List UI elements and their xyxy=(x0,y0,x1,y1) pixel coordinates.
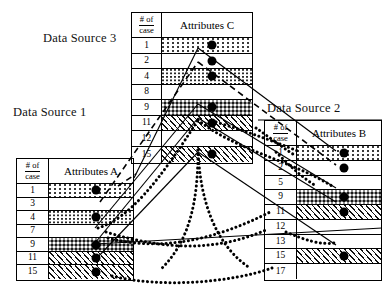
cell-case-number: 11 xyxy=(132,116,162,131)
table-row: 5 xyxy=(265,176,381,191)
table-row: 15 xyxy=(17,265,133,279)
table-row: 4 xyxy=(17,211,133,225)
record-marker-dot xyxy=(340,163,349,172)
table-row: 11 xyxy=(17,252,133,266)
table-row: 1 xyxy=(132,38,252,54)
cell-attributes-hatch xyxy=(49,252,133,265)
cell-case-number: 4 xyxy=(17,211,49,224)
table-row: 17 xyxy=(265,264,381,279)
cell-attributes-none xyxy=(297,176,381,190)
record-marker-dot xyxy=(92,186,101,195)
table-row: 3 xyxy=(17,198,133,212)
cell-attributes-dots-fine xyxy=(49,184,133,197)
record-marker-dot xyxy=(340,207,349,216)
table-row: 15 xyxy=(132,147,252,163)
table-row: 4 xyxy=(132,69,252,85)
case-header-line1: # of xyxy=(140,15,153,25)
cell-case-number: 1 xyxy=(132,38,162,53)
record-marker-dot xyxy=(208,118,217,127)
table-header-row: # ofcaseAttributes A xyxy=(17,159,133,184)
cell-case-number: 12 xyxy=(132,131,162,146)
record-marker-dot xyxy=(340,193,349,202)
record-marker-dot xyxy=(92,268,101,277)
column-header-attributes: Attributes A xyxy=(49,159,133,183)
cell-attributes-dots-med xyxy=(162,69,252,84)
cell-attributes-none xyxy=(49,225,133,238)
cell-attributes-none xyxy=(162,85,252,100)
table-row: 7 xyxy=(17,225,133,239)
cell-attributes-dots-dark xyxy=(162,100,252,115)
cell-attributes-none xyxy=(49,198,133,211)
cell-case-number: 2 xyxy=(265,161,297,175)
table-row: 15 xyxy=(265,249,381,264)
case-header-line2: case xyxy=(273,133,288,144)
record-marker-dot xyxy=(208,103,217,112)
table-data-source-2: # ofcaseAttributes B12591112131517 xyxy=(264,120,382,281)
record-marker-dot xyxy=(208,41,217,50)
label-data-source-2: Data Source 2 xyxy=(267,101,340,116)
cell-attributes-hatch xyxy=(49,265,133,279)
record-marker-dot xyxy=(92,240,101,249)
cell-case-number: 8 xyxy=(132,85,162,100)
cell-attributes-none xyxy=(297,235,381,249)
cell-case-number: 1 xyxy=(265,146,297,160)
record-marker-dot xyxy=(340,252,349,261)
cell-attributes-dots-fine xyxy=(162,38,252,53)
table-row: 1 xyxy=(17,184,133,198)
cell-case-number: 11 xyxy=(265,205,297,219)
table-header-row: # ofcaseAttributes C xyxy=(132,13,252,38)
table-row: 1 xyxy=(265,146,381,161)
cell-case-number: 15 xyxy=(17,265,49,279)
record-marker-dot xyxy=(92,213,101,222)
record-marker-dot xyxy=(340,148,349,157)
table-row: 12 xyxy=(265,220,381,235)
table-row: 11 xyxy=(132,116,252,132)
table-data-source-1: # ofcaseAttributes A134791115 xyxy=(16,158,134,281)
dotted-link-center-peak xyxy=(160,150,198,270)
case-header-line2: case xyxy=(139,25,154,36)
cell-attributes-dots-fine xyxy=(297,146,381,160)
column-header-attributes: Attributes C xyxy=(162,13,252,37)
case-header-line1: # of xyxy=(26,161,39,171)
cell-case-number: 11 xyxy=(17,252,49,265)
case-header-line2: case xyxy=(25,171,40,182)
column-header-case-number: # ofcase xyxy=(17,159,49,183)
cell-case-number: 1 xyxy=(17,184,49,197)
cell-attributes-dots-med xyxy=(49,211,133,224)
cell-attributes-none xyxy=(297,264,381,279)
case-header-line1: # of xyxy=(274,123,287,133)
cell-case-number: 15 xyxy=(132,147,162,163)
cell-attributes-none xyxy=(162,54,252,69)
cell-attributes-none xyxy=(297,161,381,175)
column-header-case-number: # ofcase xyxy=(132,13,162,37)
table-row: 9 xyxy=(265,190,381,205)
record-marker-dot xyxy=(208,56,217,65)
cell-case-number: 3 xyxy=(17,198,49,211)
cell-case-number: 12 xyxy=(265,220,297,234)
cell-case-number: 9 xyxy=(132,100,162,115)
cell-attributes-hatch xyxy=(162,147,252,163)
cell-attributes-none xyxy=(162,131,252,146)
record-marker-dot xyxy=(208,150,217,159)
table-data-source-3: # ofcaseAttributes C12489111215 xyxy=(131,12,253,164)
table-header-row: # ofcaseAttributes B xyxy=(265,121,381,146)
cell-case-number: 15 xyxy=(265,249,297,263)
dotted-link-center-peak-right xyxy=(198,150,250,268)
cell-case-number: 9 xyxy=(265,190,297,204)
cell-case-number: 4 xyxy=(132,69,162,84)
table-row: 2 xyxy=(132,54,252,70)
cell-attributes-hatch xyxy=(297,249,381,263)
column-header-attributes: Attributes B xyxy=(297,121,381,145)
column-header-case-number: # ofcase xyxy=(265,121,297,145)
cell-case-number: 7 xyxy=(17,225,49,238)
record-marker-dot xyxy=(92,254,101,263)
cell-attributes-none xyxy=(297,220,381,234)
figure-canvas: Data Source 3 Data Source 1 Data Source … xyxy=(0,0,387,287)
cell-attributes-hatch xyxy=(297,205,381,219)
cell-attributes-hatch xyxy=(162,116,252,131)
table-row: 11 xyxy=(265,205,381,220)
cell-case-number: 17 xyxy=(265,264,297,279)
cell-attributes-dots-dark xyxy=(49,238,133,251)
table-row: 2 xyxy=(265,161,381,176)
cell-case-number: 5 xyxy=(265,176,297,190)
